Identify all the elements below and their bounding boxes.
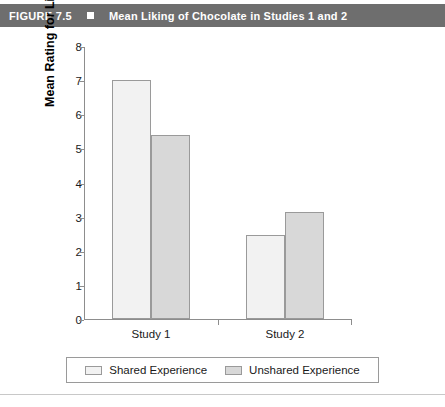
chart-legend: Shared ExperienceUnshared Experience [66, 357, 379, 383]
figure-number: FIGURE 7.5 [9, 10, 72, 22]
y-tick-mark [79, 81, 84, 82]
legend-swatch-unshared [225, 366, 242, 375]
y-axis-line [84, 47, 85, 320]
legend-label: Unshared Experience [249, 364, 360, 376]
bar-study-1-unshared-experience [151, 135, 190, 319]
x-tick-mark [218, 320, 219, 325]
bar-study-2-unshared-experience [285, 212, 324, 319]
bar-study-1-shared-experience [112, 80, 151, 319]
y-tick-mark [79, 320, 84, 321]
y-tick-mark [79, 252, 84, 253]
figure-title: Mean Liking of Chocolate in Studies 1 an… [109, 10, 347, 22]
chart-region: Mean Rating for Liking of Chocolate 0123… [0, 27, 445, 382]
y-axis-title: Mean Rating for Liking of Chocolate [42, 0, 58, 115]
y-tick-mark [79, 286, 84, 287]
legend-swatch-shared [85, 366, 102, 375]
bottom-divider [0, 394, 445, 395]
y-tick-mark [79, 184, 84, 185]
legend-label: Shared Experience [109, 364, 207, 376]
bar-study-2-shared-experience [246, 235, 285, 319]
legend-item: Unshared Experience [225, 364, 360, 376]
legend-item: Shared Experience [85, 364, 207, 376]
x-axis-group-label: Study 1 [111, 328, 191, 340]
x-tick-mark-end [351, 320, 352, 325]
y-tick-mark [79, 218, 84, 219]
y-tick-mark [79, 47, 84, 48]
figure-header-bar: FIGURE 7.5 Mean Liking of Chocolate in S… [0, 4, 445, 27]
y-tick-mark [79, 149, 84, 150]
square-bullet-icon [87, 12, 94, 19]
y-tick-mark [79, 115, 84, 116]
x-axis-group-label: Study 2 [245, 328, 325, 340]
plot-area [84, 47, 352, 320]
